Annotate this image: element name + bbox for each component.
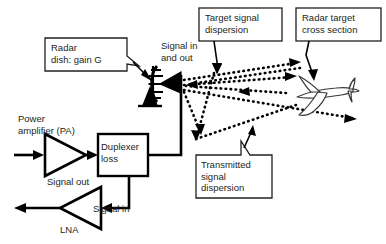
callout-label-radar-target-cross-section: Radar target cross section	[302, 12, 380, 35]
figure-canvas: Radar dish: gain G Target signal dispers…	[0, 0, 386, 244]
aircraft-target	[297, 76, 359, 115]
pa-to-duplexer-arrow	[86, 150, 98, 160]
label-signal-in: Signal in	[93, 203, 153, 215]
signal-dispersion-paths	[184, 63, 352, 140]
callout-label-transmitted-signal-dispersion: Transmitted signal dispersion	[201, 159, 271, 194]
pa-input-arrow	[14, 150, 44, 160]
label-signal-in-and-out: Signal in and out	[161, 40, 221, 63]
label-signal-out: Signal out	[47, 176, 113, 188]
lna-output-arrow	[14, 203, 60, 213]
figure-caption-clipped	[0, 235, 386, 244]
return-beam-lower	[196, 105, 296, 139]
label-power-amplifier: Power amplifier (PA)	[18, 113, 102, 136]
callout-label-target-signal-dispersion: Target signal dispersion	[205, 12, 281, 35]
return-beam-mid	[186, 86, 286, 93]
label-lna: LNA	[60, 224, 94, 236]
power-amplifier-symbol	[45, 134, 86, 176]
label-duplexer-loss: Duplexer loss	[101, 141, 149, 164]
dispersion-arrowheads	[186, 58, 357, 141]
callout-label-radar-dish: Radar dish: gain G	[51, 42, 127, 65]
dish-pedestal-symbol	[138, 84, 162, 106]
